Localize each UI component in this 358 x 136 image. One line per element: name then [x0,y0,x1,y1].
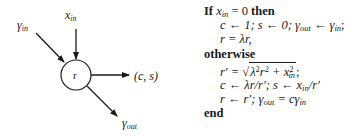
algo-line-otherwise: otherwise [204,47,345,61]
gamma-out-label: γout [122,116,138,131]
semicolon: ; [296,65,299,79]
algo-line-end: end [204,106,345,120]
algo-line-r-scale: r = λr, [204,32,345,46]
algo-line-c-s-update: c ← λr/r′; s ← xin/r′ [204,78,345,92]
gamma-in-arrow [36,33,64,62]
assign-r-gamma: r ← r′; γ [220,92,263,106]
keyword-if: If [204,4,213,18]
r-prime-lhs: r′ = [220,65,242,79]
gamma-out-arrow [87,86,117,116]
x-in-label: xin [64,8,77,23]
keyword-end: end [204,106,223,120]
givens-rotation-node-diagram: γin xin r (c, s) γout [0,0,200,136]
keyword-then: then [251,4,275,18]
gamma-in-label: γin [17,18,28,33]
algorithm-block: If xin = 0 then c ← 1; s ← 0; γout ← γin… [204,4,345,120]
assign-gamma: ← γ [311,18,335,32]
algo-line-assign-cs: c ← 1; s ← 0; γout ← γin; [204,18,345,32]
condition: = 0 [228,4,251,18]
assign-r: r = λr, [220,32,252,46]
assign-gamma-out: = cγ [274,92,299,106]
plus-x: + x [269,65,289,79]
subscript: out [300,23,311,33]
subscript: in [299,97,306,107]
algo-line-r-prime: r′ = √λ2r2 + x2in; [204,61,345,78]
semicolon: ; [341,18,344,32]
assign-cs: c ← 1; s ← 0; γ [220,18,300,32]
algo-line-if: If xin = 0 then [204,4,345,18]
divide-r-prime: /r′ [309,78,320,92]
keyword-otherwise: otherwise [204,47,255,61]
cs-output-label: (c, s) [134,69,158,83]
sqrt-symbol: √ [242,65,249,79]
node-label: r [73,69,77,81]
algo-line-r-gamma-update: r ← r′; γout = cγin [204,92,345,106]
assign-c-s: c ← λr/r′; s ← x [220,78,302,92]
subscript: out [263,97,274,107]
